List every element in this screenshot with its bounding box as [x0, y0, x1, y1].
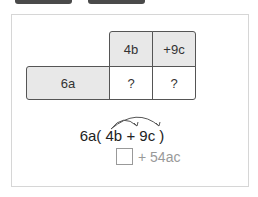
question-card: 4b +9c 6a ? ? 6a( 4b + 9c ) + 54ac — [11, 14, 249, 187]
grid-header-4b: 4b — [109, 31, 153, 67]
expr-term2: 9c — [139, 127, 155, 144]
grid-header-9c-label: +9c — [163, 42, 184, 57]
answer-rest: + 54ac — [138, 149, 180, 165]
grid-header-9c: +9c — [152, 31, 196, 67]
top-button-2[interactable] — [88, 0, 145, 4]
expr-coef: 6a — [80, 127, 97, 144]
grid-left-6a-label: 6a — [61, 76, 75, 91]
expr-open: ( — [96, 127, 101, 144]
grid-header-4b-label: 4b — [124, 42, 138, 57]
answer-input-box[interactable] — [116, 148, 133, 165]
top-button-1[interactable] — [15, 0, 72, 4]
grid-cell-2[interactable]: ? — [152, 66, 196, 100]
expression: 6a( 4b + 9c ) — [4, 127, 240, 144]
grid-cell-2-label: ? — [170, 76, 177, 91]
expr-term1: 4b — [106, 127, 123, 144]
grid-cell-1-label: ? — [127, 76, 134, 91]
grid-cell-1[interactable]: ? — [109, 66, 153, 100]
expr-close: ) — [159, 127, 164, 144]
expr-plus: + — [126, 127, 135, 144]
grid-left-6a: 6a — [26, 66, 110, 100]
